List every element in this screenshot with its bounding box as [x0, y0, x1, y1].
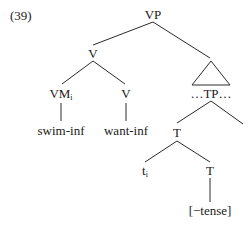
node-tp: …TP…: [190, 86, 231, 101]
node-swim-inf: swim-inf: [38, 123, 86, 138]
edge-vp-v: [93, 22, 153, 45]
node-vm-label: VM: [49, 86, 70, 101]
edge-vp-tp: [153, 22, 210, 58]
edge-t-t: [177, 141, 210, 162]
tp-triangle: [192, 61, 230, 85]
edge-t-trace: [145, 141, 177, 162]
node-trace-subscript: i: [146, 170, 149, 179]
node-vp: VP: [145, 7, 162, 22]
node-vm-subscript: i: [70, 93, 73, 102]
node-t-lower: T: [206, 163, 214, 178]
node-feature-tense: [−tense]: [189, 203, 232, 218]
example-number: (39): [10, 8, 32, 23]
node-t-upper: T: [173, 125, 181, 140]
edge-tp-t: [177, 101, 211, 123]
node-want-inf: want-inf: [104, 123, 149, 138]
edge-tp-right: [211, 101, 243, 124]
node-vm: VMi: [49, 86, 73, 102]
node-v-lower: V: [121, 86, 131, 101]
node-v-upper: V: [88, 46, 98, 61]
node-trace: ti: [142, 163, 149, 179]
edge-v-vm: [62, 61, 93, 84]
edge-v-v: [93, 61, 125, 84]
syntax-tree: (39) VP V VMi V swim-inf want-inf …TP… T…: [0, 0, 251, 229]
